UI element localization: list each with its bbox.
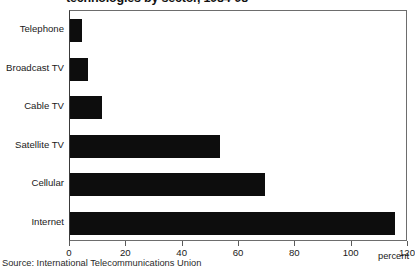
bar [70, 173, 265, 196]
bar [70, 58, 88, 81]
x-tick-mark [238, 241, 239, 246]
bar-row [70, 204, 406, 243]
bar-row [70, 50, 406, 89]
bar [70, 19, 82, 42]
x-tick-mark [69, 241, 70, 246]
category-label: Telephone [0, 23, 64, 34]
category-label: Cable TV [0, 100, 64, 111]
bar-row [70, 11, 406, 50]
x-tick-label: 20 [120, 247, 131, 258]
source-note: Source: International Telecommunications… [2, 258, 201, 267]
chart-title: technologies by sector, 1984-98 [66, 0, 414, 5]
x-tick-label: 40 [176, 247, 187, 258]
x-tick-label: 0 [66, 247, 71, 258]
bar [70, 135, 220, 158]
x-tick-mark [294, 241, 295, 246]
category-label: Satellite TV [0, 139, 64, 150]
bar [70, 96, 102, 119]
category-label: Cellular [0, 177, 64, 188]
bar-row [70, 165, 406, 204]
category-label: Broadcast TV [0, 62, 64, 73]
x-tick-mark [407, 241, 408, 246]
x-tick-mark [125, 241, 126, 246]
bar [70, 212, 395, 235]
plot-area [69, 10, 407, 241]
x-tick-mark [351, 241, 352, 246]
bar-row [70, 88, 406, 127]
x-axis-unit-label: percent [378, 251, 409, 261]
x-tick-mark [182, 241, 183, 246]
x-tick-label: 60 [233, 247, 244, 258]
bar-row [70, 127, 406, 166]
category-label: Internet [0, 216, 64, 227]
x-tick-label: 100 [343, 247, 359, 258]
x-tick-label: 80 [289, 247, 300, 258]
